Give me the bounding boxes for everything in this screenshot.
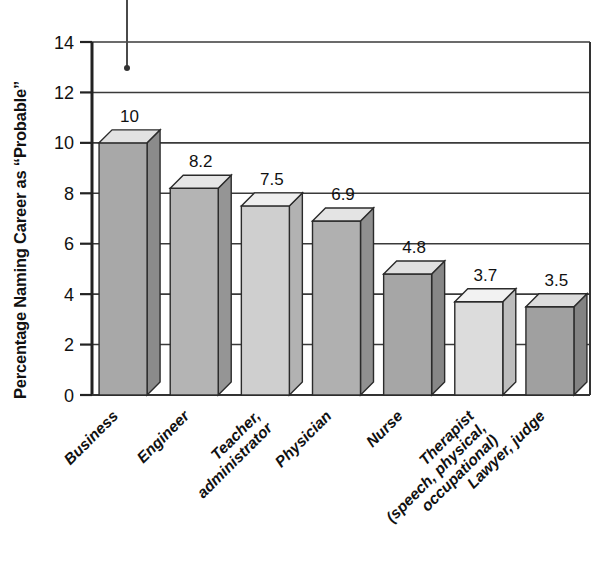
y-tick-label: 14 [54,33,74,53]
bar-value-label: 7.5 [260,170,284,189]
bar-front-face [526,307,574,395]
bar-4 [384,261,445,395]
bar-side-face [289,193,302,395]
bar-value-label: 6.9 [331,185,355,204]
bar-side-face [503,289,516,395]
chart-canvas: Percentage Naming Career as “Probable” 0… [0,0,605,573]
bar-side-face [574,294,587,395]
y-axis-title: Percentage Naming Career as “Probable” [11,81,29,399]
bar-side-face [218,175,231,395]
bar-value-label: 8.2 [189,152,213,171]
y-tick-label: 0 [64,386,74,406]
pin-marker-dot [124,65,130,71]
y-tick-label: 8 [64,184,74,204]
bar-value-label: 3.5 [545,271,569,290]
bar-6 [526,294,587,395]
bar-1 [170,175,231,395]
y-tick-label: 4 [64,285,74,305]
bar-0 [99,130,160,395]
y-tick-label: 6 [64,234,74,254]
bar-side-face [147,130,160,395]
bar-value-label: 4.8 [402,238,426,257]
bar-front-face [455,302,503,395]
y-tick-label: 12 [54,83,74,103]
bar-side-face [432,261,445,395]
bar-chart: Percentage Naming Career as “Probable” 0… [0,0,605,573]
bar-value-label: 10 [120,107,139,126]
bar-front-face [384,274,432,395]
bar-front-face [313,221,361,395]
bar-3 [313,208,374,395]
bar-value-label: 3.7 [473,266,497,285]
bar-front-face [99,143,147,395]
bar-2 [241,193,302,395]
bar-5 [455,289,516,395]
bar-side-face [361,208,374,395]
y-tick-label: 10 [54,133,74,153]
bar-front-face [170,188,218,395]
bar-front-face [241,206,289,395]
y-tick-label: 2 [64,335,74,355]
